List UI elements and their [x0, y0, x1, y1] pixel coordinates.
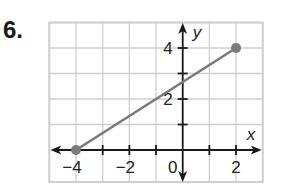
x-tick-label: 0: [168, 158, 177, 177]
coordinate-plane: −4−20224xy: [0, 0, 283, 190]
x-axis-label: x: [246, 125, 256, 144]
x-tick-label: −4: [62, 158, 81, 177]
y-tick-label: 4: [163, 39, 172, 58]
x-tick-label: 2: [231, 158, 240, 177]
x-tick-label: −2: [116, 158, 135, 177]
y-axis-label: y: [192, 23, 203, 42]
endpoint-dot: [231, 43, 241, 53]
endpoint-dot: [71, 145, 81, 155]
